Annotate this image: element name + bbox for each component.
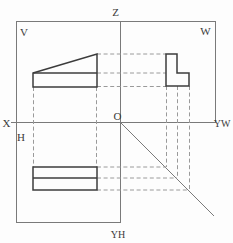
- origin-label: O: [114, 110, 122, 122]
- z-axis-label: Z: [112, 6, 119, 18]
- projection-drawing: Z V W X H O YW YH: [0, 0, 233, 243]
- front-view-outline: [33, 54, 97, 87]
- yw-axis-label: YW: [214, 118, 231, 129]
- top-view-shape: [33, 167, 97, 190]
- x-axis-label: X: [3, 117, 11, 129]
- side-view-shape: [166, 54, 189, 86]
- axes: [11, 22, 216, 224]
- drawing-surface: Z V W X H O YW YH: [0, 0, 233, 243]
- yh-axis-label: YH: [111, 229, 125, 240]
- v-plane-label: V: [20, 26, 28, 38]
- side-view-outline: [166, 54, 189, 86]
- front-view-shape: [33, 54, 97, 87]
- w-plane-label: W: [200, 25, 211, 37]
- transfer-diagonal-line: [121, 123, 215, 217]
- h-plane-label: H: [17, 131, 25, 143]
